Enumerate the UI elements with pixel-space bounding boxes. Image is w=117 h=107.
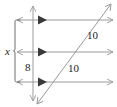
- label-10-lower: 10: [68, 63, 79, 74]
- parallel-line-group: [17, 20, 113, 82]
- bracket-path: [14, 20, 21, 82]
- diagonal-transversal: [37, 4, 111, 104]
- parallel-mark-bottom-icon: [38, 78, 47, 87]
- label-x: x: [5, 46, 10, 57]
- parallel-mark-middle-icon: [38, 48, 47, 57]
- parallel-mark-top-icon: [38, 16, 47, 25]
- label-10-upper: 10: [87, 30, 98, 41]
- geometry-diagram-canvas: [0, 0, 117, 107]
- diagonal-transversal-group: [37, 4, 111, 104]
- x-measure-bracket: [14, 20, 21, 82]
- geometry-figure: x 8 10 10: [0, 0, 117, 107]
- parallel-arrow-marks: [38, 16, 47, 87]
- label-8: 8: [25, 62, 31, 73]
